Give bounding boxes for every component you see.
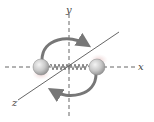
left-atom [32, 59, 50, 80]
y-axis-label: y [65, 4, 72, 15]
top-rotation-arrow-icon [42, 39, 86, 60]
x-axis-label: x [138, 61, 144, 72]
rotating-molecule-diagram: y x z [0, 0, 154, 122]
right-atom [89, 54, 108, 75]
bottom-rotation-arrow-icon [53, 74, 96, 95]
y-axis: y [65, 4, 72, 118]
z-axis-label: z [11, 97, 18, 108]
